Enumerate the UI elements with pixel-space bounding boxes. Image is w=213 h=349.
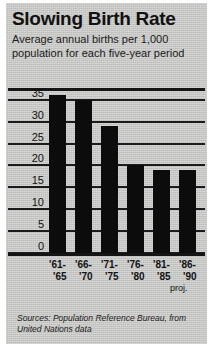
bar-'66-'70 (75, 100, 92, 253)
bar-series (49, 91, 205, 253)
x-tick-label-'76-'80: '76-'80 (127, 259, 153, 282)
x-tick-label-'71-'75: '71-'75 (101, 259, 127, 282)
y-tick-label-25: 25 (18, 132, 44, 143)
chart-header: Slowing Birth Rate Average annual births… (12, 8, 204, 60)
x-axis-tick-labels: '61-'65'66-'70'71-'75'76-'80'81-'85'86-'… (49, 259, 213, 299)
x-tick-label-'61-'65: '61-'65 (49, 259, 75, 282)
projection-annotation: proj. (170, 283, 188, 293)
bar-'71-'75 (101, 126, 118, 253)
y-tick-label-35: 35 (18, 88, 44, 99)
y-tick-label-5: 5 (18, 219, 44, 230)
x-tick-label-'66-'70: '66-'70 (75, 259, 101, 282)
x-axis-line (8, 253, 205, 256)
y-tick-label-10: 10 (18, 197, 44, 208)
y-tick-label-15: 15 (18, 175, 44, 186)
plot-area: 05101520253035 (8, 91, 205, 256)
source-note: Sources: Population Reference Bureau, fr… (17, 313, 197, 334)
page-title: Slowing Birth Rate (12, 8, 204, 30)
y-tick-label-30: 30 (18, 110, 44, 121)
bar-'76-'80 (127, 165, 144, 253)
birth-rate-chart-figure: Slowing Birth Rate Average annual births… (0, 0, 213, 349)
bar-'86-'90 (179, 170, 196, 253)
bar-'81-'85 (153, 170, 170, 253)
chart-subtitle: Average annual births per 1,000 populati… (12, 33, 204, 60)
y-tick-label-0: 0 (18, 241, 44, 252)
y-tick-label-20: 20 (18, 153, 44, 164)
x-tick-label-'81-'85: '81-'85 (153, 259, 179, 282)
bar-'61-'65 (49, 95, 66, 253)
x-tick-label-'86-'90: '86-'90 (179, 259, 205, 282)
